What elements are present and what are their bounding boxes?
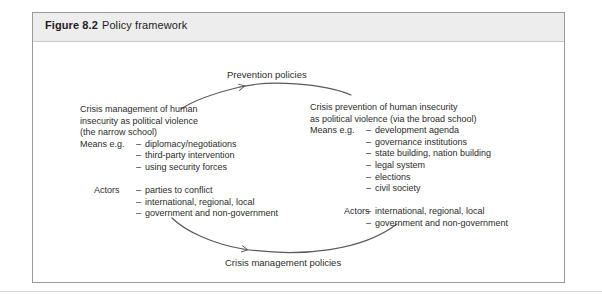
dash-bullet-icon: – — [366, 125, 375, 137]
figure-title: Policy framework — [102, 19, 187, 31]
dash-bullet-icon: – — [366, 183, 375, 195]
left-heading-line-2: insecurity as political violence — [80, 116, 295, 128]
right-means-items: – development agenda – governance instit… — [366, 125, 560, 195]
dash-bullet-icon: – — [136, 208, 145, 220]
left-means-item-text: using security forces — [145, 162, 295, 174]
prevention-policies-label: Prevention policies — [227, 69, 307, 80]
dash-bullet-icon: – — [136, 150, 145, 162]
page-bottom-rule — [0, 291, 602, 292]
dash-bullet-icon: – — [366, 172, 375, 184]
right-actors-item-text: international, regional, local — [375, 206, 560, 218]
right-actors-item-text: government and non-government — [375, 218, 560, 230]
left-means-label: Means e.g. — [80, 139, 136, 151]
right-means-item-text: civil society — [375, 183, 560, 195]
right-means-item-text: development agenda — [375, 125, 560, 137]
right-means-item-text: elections — [375, 172, 560, 184]
right-text-block: Crisis prevention of human insecurity as… — [310, 102, 560, 230]
bottom-arc-arrowhead-segment — [172, 218, 243, 249]
dash-bullet-icon: – — [366, 218, 375, 230]
left-actors-item: – parties to conflict — [136, 185, 295, 197]
figure-header-bar: Figure 8.2Policy framework — [33, 13, 564, 42]
left-heading-line-1: Crisis management of human — [80, 104, 295, 116]
right-heading-line-1: Crisis prevention of human insecurity — [310, 102, 560, 114]
left-actors-item: – government and non-government — [136, 208, 295, 220]
figure-number: Figure 8.2 — [45, 19, 98, 31]
left-actors-item: – international, regional, local — [136, 197, 295, 209]
left-actors-item-text: parties to conflict — [145, 185, 295, 197]
dash-bullet-icon: – — [366, 148, 375, 160]
left-actors-item-text: international, regional, local — [145, 197, 295, 209]
right-actors-item: – government and non-government — [366, 218, 560, 230]
top-arc-arrowhead-segment — [240, 83, 351, 95]
left-means-item: – diplomacy/negotiations — [136, 139, 295, 151]
left-means-group: Means e.g. – diplomacy/negotiations – th… — [80, 139, 295, 174]
right-means-item: – development agenda — [366, 125, 560, 137]
right-heading-line-2: as political violence (via the broad sch… — [310, 114, 560, 126]
left-means-items: – diplomacy/negotiations – third-party i… — [136, 139, 295, 174]
dash-bullet-icon: – — [136, 139, 145, 151]
dash-bullet-icon: – — [366, 160, 375, 172]
left-means-item: – third-party intervention — [136, 150, 295, 162]
left-actors-group: Actors – parties to conflict – internati… — [80, 185, 295, 220]
dash-bullet-icon: – — [136, 185, 145, 197]
right-means-item: – legal system — [366, 160, 560, 172]
figure-box: Figure 8.2Policy framework — [32, 12, 565, 283]
right-means-group: Means e.g. – development agenda – govern… — [310, 125, 560, 195]
left-text-block: Crisis management of human insecurity as… — [80, 104, 295, 220]
figure-caption: Figure 8.2Policy framework — [45, 19, 187, 31]
right-means-label: Means e.g. — [310, 125, 366, 137]
right-means-item-text: legal system — [375, 160, 560, 172]
policy-framework-diagram: Prevention policies Crisis management po… — [33, 42, 564, 282]
figure-body: Prevention policies Crisis management po… — [33, 42, 564, 282]
left-heading-line-3: (the narrow school) — [80, 127, 295, 139]
right-means-item: – elections — [366, 172, 560, 184]
right-actors-items: – international, regional, local – gover… — [366, 206, 560, 229]
dash-bullet-icon: – — [136, 162, 145, 174]
left-means-item: – using security forces — [136, 162, 295, 174]
left-means-item-text: diplomacy/negotiations — [145, 139, 295, 151]
dash-bullet-icon: – — [366, 137, 375, 149]
left-means-item-text: third-party intervention — [145, 150, 295, 162]
right-actors-item: – international, regional, local — [366, 206, 560, 218]
dash-bullet-icon: – — [136, 197, 145, 209]
right-means-item-text: state building, nation building — [375, 148, 560, 160]
left-actors-item-text: government and non-government — [145, 208, 295, 220]
right-actors-group: Actors – international, regional, local … — [310, 206, 560, 229]
right-means-item: – governance institutions — [366, 137, 560, 149]
dash-bullet-icon: – — [366, 206, 375, 218]
right-means-item: – civil society — [366, 183, 560, 195]
right-means-item-text: governance institutions — [375, 137, 560, 149]
right-means-item: – state building, nation building — [366, 148, 560, 160]
left-actors-items: – parties to conflict – international, r… — [136, 185, 295, 220]
crisis-management-policies-label: Crisis management policies — [225, 257, 341, 268]
